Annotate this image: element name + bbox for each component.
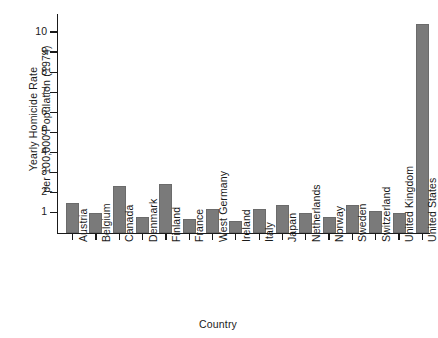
x-tick bbox=[95, 234, 96, 240]
x-tick bbox=[422, 234, 423, 240]
y-tick: 6 bbox=[50, 112, 58, 113]
x-tick bbox=[305, 234, 306, 240]
y-tick-label: 10 bbox=[35, 25, 47, 37]
x-tick-label: France bbox=[193, 209, 205, 242]
x-tick bbox=[212, 234, 213, 240]
y-tick: 7 bbox=[50, 92, 58, 93]
y-tick: 3 bbox=[50, 172, 58, 173]
x-tick bbox=[282, 234, 283, 240]
x-tick-label: Canada bbox=[123, 205, 135, 242]
x-tick bbox=[72, 234, 73, 240]
x-tick-label: Belgium bbox=[100, 203, 112, 242]
x-tick bbox=[189, 234, 190, 240]
x-tick-label: West Germany bbox=[217, 171, 229, 242]
x-axis-title: Country bbox=[0, 318, 436, 330]
x-tick-label: Ireland bbox=[240, 209, 252, 242]
y-tick-label: 4 bbox=[41, 145, 47, 157]
x-tick-label: Finland bbox=[170, 207, 182, 242]
x-tick bbox=[235, 234, 236, 240]
x-tick-label: Italy bbox=[263, 222, 275, 242]
y-tick-label: 6 bbox=[41, 105, 47, 117]
y-tick: 8 bbox=[50, 72, 58, 73]
x-tick-label: United States bbox=[426, 178, 438, 242]
x-tick-label: Netherlands bbox=[310, 184, 322, 242]
plot-area: 12345678910 bbox=[57, 14, 430, 234]
y-axis-title-line1: Yearly Homicide Rate bbox=[27, 29, 40, 209]
x-tick bbox=[398, 234, 399, 240]
y-tick: 10 bbox=[50, 31, 58, 32]
x-tick-label: Norway bbox=[333, 206, 345, 242]
x-tick-label: Austria bbox=[77, 209, 89, 242]
x-tick-label: Switzerland bbox=[380, 187, 392, 242]
x-tick-label: Denmark bbox=[147, 199, 159, 242]
x-tick bbox=[142, 234, 143, 240]
y-tick: 1 bbox=[50, 212, 58, 213]
y-tick: 4 bbox=[50, 152, 58, 153]
x-tick bbox=[352, 234, 353, 240]
x-tick-label: Sweden bbox=[356, 203, 368, 242]
x-tick bbox=[165, 234, 166, 240]
y-tick: 5 bbox=[50, 132, 58, 133]
x-tick-label: Japan bbox=[286, 213, 298, 242]
y-tick: 2 bbox=[50, 192, 58, 193]
y-tick: 9 bbox=[50, 51, 58, 52]
x-tick-label: United Kingdom bbox=[403, 166, 415, 242]
y-tick-label: 8 bbox=[41, 65, 47, 77]
x-tick bbox=[328, 234, 329, 240]
y-tick-label: 3 bbox=[41, 165, 47, 177]
x-tick bbox=[259, 234, 260, 240]
y-tick-label: 9 bbox=[41, 45, 47, 57]
y-tick-label: 2 bbox=[41, 185, 47, 197]
x-tick bbox=[375, 234, 376, 240]
y-tick-label: 5 bbox=[41, 125, 47, 137]
y-tick-label: 7 bbox=[41, 85, 47, 97]
x-tick bbox=[119, 234, 120, 240]
y-axis-line bbox=[57, 14, 58, 234]
y-tick-label: 1 bbox=[41, 205, 47, 217]
